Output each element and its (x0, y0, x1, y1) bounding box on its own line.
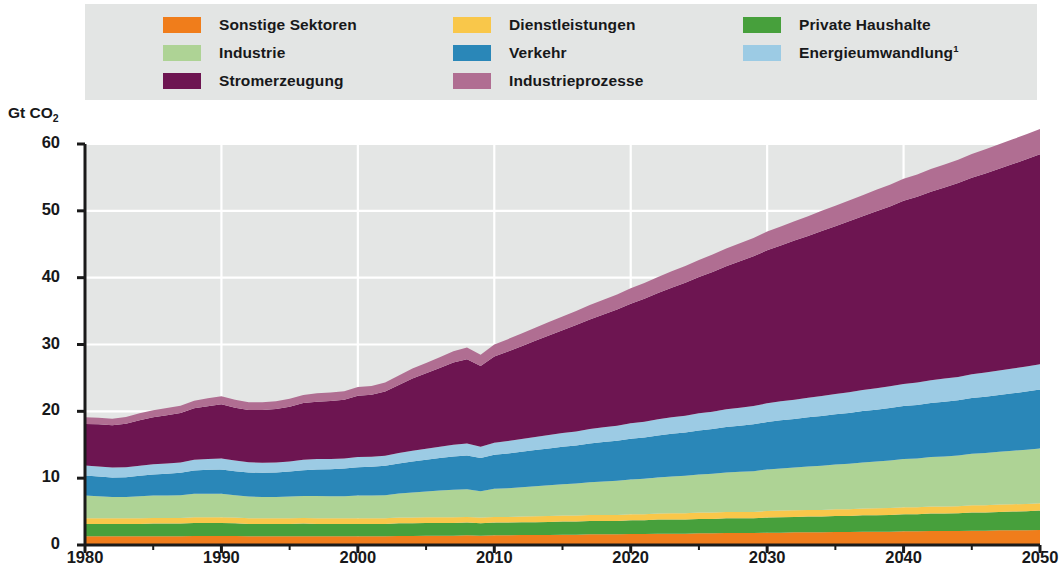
x-tick-label-1980: 1980 (45, 548, 125, 567)
x-tick-label-2030: 2030 (727, 548, 807, 567)
y-tick-label-30: 30 (4, 334, 60, 353)
y-tick-label-40: 40 (4, 267, 60, 286)
x-tick-label-2010: 2010 (454, 548, 534, 567)
x-tick-label-2000: 2000 (318, 548, 398, 567)
y-tick-label-20: 20 (4, 400, 60, 419)
x-tick-label-2050: 2050 (1000, 548, 1063, 567)
x-tick-label-2020: 2020 (591, 548, 671, 567)
y-tick-label-10: 10 (4, 467, 60, 486)
y-tick-label-50: 50 (4, 200, 60, 219)
x-tick-label-2040: 2040 (864, 548, 944, 567)
x-tick-label-1990: 1990 (181, 548, 261, 567)
y-tick-label-60: 60 (4, 133, 60, 152)
